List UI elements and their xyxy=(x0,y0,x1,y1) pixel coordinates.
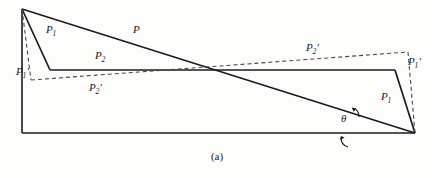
label-p2-left: P2 xyxy=(95,50,105,61)
label-p1-prime-right-mark: ' xyxy=(418,55,420,67)
theta-arrow-lower-head xyxy=(340,136,345,140)
label-p2-prime-left-sub: 2 xyxy=(95,87,99,96)
label-p1-prime-left-mark: ' xyxy=(26,65,28,77)
label-p1-left-sub: 1 xyxy=(52,29,56,38)
label-p1-right: P1 xyxy=(381,91,391,102)
label-theta: θ xyxy=(341,113,346,124)
label-p2-prime-left-mark: ' xyxy=(99,81,101,93)
label-p-diagonal-base: P xyxy=(133,23,140,35)
label-p1-prime-left: P1' xyxy=(16,66,29,77)
label-theta-base: θ xyxy=(341,112,346,124)
label-p2-prime-right-mark: ' xyxy=(316,41,318,53)
label-p2-prime-right: P2' xyxy=(306,42,319,53)
figure-caption: (a) xyxy=(0,150,434,162)
label-p1-prime-right-sub: 1 xyxy=(414,61,418,70)
label-p1-left: P1 xyxy=(46,24,56,35)
label-p1-prime-right: P1' xyxy=(408,56,421,67)
label-p2-prime-right-sub: 2 xyxy=(312,47,316,56)
label-p-diagonal: P xyxy=(133,24,140,35)
theta-arrow-lower xyxy=(341,138,348,147)
label-p2-left-sub: 2 xyxy=(101,55,105,64)
label-p1-right-sub: 1 xyxy=(387,96,391,105)
label-p2-prime-left: P2' xyxy=(89,82,102,93)
label-p1-prime-left-sub: 1 xyxy=(22,71,26,80)
figure-container: P1 P P2 P1' P2' P2' P1' P1 θ (a) xyxy=(0,0,434,178)
dashed-segment-p2-prime xyxy=(31,52,408,80)
